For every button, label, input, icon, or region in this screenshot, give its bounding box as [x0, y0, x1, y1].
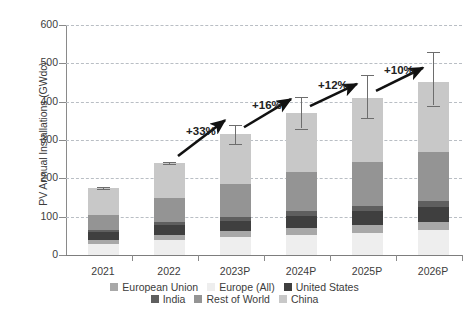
x-axis-label-2024P: 2024P [266, 265, 336, 277]
legend-swatch-icon [279, 295, 287, 303]
x-axis-label-2025P: 2025P [332, 265, 402, 277]
x-tick [396, 255, 397, 261]
y-tick-label-200: 200 [18, 172, 58, 183]
y-tick-label-600: 600 [18, 19, 58, 30]
plot-area: +33%+16%+12%+10% 202120222023P2024P2025P… [66, 25, 462, 255]
x-axis-label-2026P: 2026P [398, 265, 468, 277]
y-tick-label-500: 500 [18, 57, 58, 68]
x-tick [198, 255, 199, 261]
y-tick-100 [59, 217, 66, 218]
x-axis-label-2021: 2021 [68, 265, 138, 277]
legend: European UnionEurope (All)United States … [0, 282, 469, 304]
y-tick-600 [59, 25, 66, 26]
x-tick [264, 255, 265, 261]
legend-row-top: European UnionEurope (All)United States [110, 282, 358, 293]
legend-label: Rest of World [206, 294, 269, 305]
x-axis-label-2022: 2022 [134, 265, 204, 277]
legend-item-european-union[interactable]: European Union [110, 282, 198, 293]
y-tick-400 [59, 102, 66, 103]
growth-label-+33%: +33% [186, 125, 216, 137]
growth-label-+12%: +12% [318, 79, 348, 91]
legend-item-europe-all[interactable]: Europe (All) [207, 282, 274, 293]
y-tick-label-100: 100 [18, 211, 58, 222]
growth-label-+10%: +10% [384, 64, 414, 76]
y-tick-300 [59, 140, 66, 141]
x-tick [132, 255, 133, 261]
x-axis-label-2023P: 2023P [200, 265, 270, 277]
legend-label: Europe (All) [219, 282, 274, 293]
pv-installations-chart: PV Annual Installations (GWdc) +33%+16%+… [0, 0, 469, 332]
growth-label-+16%: +16% [252, 99, 282, 111]
y-tick-200 [59, 178, 66, 179]
legend-item-rest-of-world[interactable]: Rest of World [194, 294, 269, 305]
y-tick-0 [59, 255, 66, 256]
x-tick [462, 255, 463, 261]
y-tick-500 [59, 63, 66, 64]
legend-swatch-icon [151, 295, 159, 303]
legend-item-united-states[interactable]: United States [284, 282, 359, 293]
y-tick-label-0: 0 [18, 249, 58, 260]
y-tick-label-400: 400 [18, 96, 58, 107]
growth-arrows [66, 25, 462, 255]
legend-swatch-icon [284, 283, 292, 291]
legend-item-china[interactable]: China [279, 294, 318, 305]
x-tick [330, 255, 331, 261]
legend-label: United States [296, 282, 359, 293]
legend-swatch-icon [110, 283, 118, 291]
legend-swatch-icon [194, 295, 202, 303]
y-tick-label-300: 300 [18, 134, 58, 145]
legend-row-bottom: IndiaRest of WorldChina [151, 294, 319, 305]
legend-label: India [163, 294, 186, 305]
legend-item-india[interactable]: India [151, 294, 186, 305]
legend-label: European Union [122, 282, 198, 293]
legend-label: China [291, 294, 318, 305]
legend-swatch-icon [207, 283, 215, 291]
